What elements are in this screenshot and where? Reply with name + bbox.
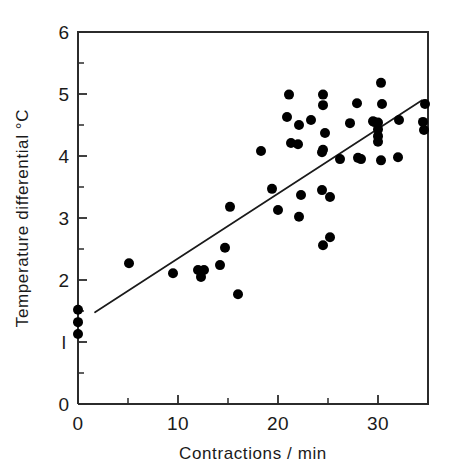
data-point: [377, 99, 387, 109]
data-point: [256, 146, 266, 156]
trend-line-group: [95, 100, 422, 312]
y-tick-label-2: 2: [58, 270, 69, 291]
x-tick-label-10: 10: [167, 413, 189, 434]
data-point: [325, 192, 335, 202]
data-point: [318, 240, 328, 250]
plot-canvas: 01020300l23456 Contractions / minTempera…: [0, 0, 451, 467]
axis-frame: [78, 32, 428, 404]
data-point: [335, 154, 345, 164]
data-point: [352, 98, 362, 108]
data-point: [199, 265, 209, 275]
data-point: [376, 155, 386, 165]
x-axis-title: Contractions / min: [179, 444, 327, 463]
x-tick-label-0: 0: [72, 413, 83, 434]
y-tick-label-3: 3: [58, 208, 69, 229]
data-points-group: [73, 78, 430, 339]
data-point: [233, 289, 243, 299]
data-point: [296, 190, 306, 200]
data-point: [356, 154, 366, 164]
y-tick-label-1: l: [62, 332, 67, 353]
x-tick-label-30: 30: [367, 413, 389, 434]
x-tick-label-20: 20: [267, 413, 289, 434]
data-point: [73, 329, 83, 339]
data-point: [373, 137, 383, 147]
data-point: [306, 115, 316, 125]
data-point: [320, 128, 330, 138]
y-tick-label-0: 0: [58, 394, 69, 415]
data-point: [273, 205, 283, 215]
data-point: [376, 78, 386, 88]
data-point: [317, 185, 327, 195]
y-tick-label-5: 5: [58, 84, 69, 105]
data-point: [293, 139, 303, 149]
data-point: [345, 118, 355, 128]
data-point: [325, 232, 335, 242]
data-point: [220, 243, 230, 253]
data-point: [393, 152, 403, 162]
regression-line: [95, 100, 422, 312]
data-point: [420, 99, 430, 109]
axes-group: [78, 32, 428, 404]
data-point: [225, 202, 235, 212]
data-point: [73, 317, 83, 327]
data-point: [282, 112, 292, 122]
data-point: [318, 145, 328, 155]
data-point: [318, 90, 328, 100]
data-point: [168, 268, 178, 278]
data-point: [124, 258, 134, 268]
data-point: [73, 305, 83, 315]
data-point: [394, 115, 404, 125]
data-point: [419, 125, 429, 135]
data-point: [294, 212, 304, 222]
data-point: [284, 90, 294, 100]
y-tick-label-6: 6: [58, 22, 69, 43]
y-tick-label-4: 4: [58, 146, 69, 167]
data-point: [267, 184, 277, 194]
data-point: [294, 120, 304, 130]
data-point: [215, 260, 225, 270]
ticks-group: [78, 32, 428, 404]
data-point: [318, 100, 328, 110]
scatter-plot-figure: 01020300l23456 Contractions / minTempera…: [0, 0, 451, 467]
y-axis-title: Temperature differential °C: [13, 109, 32, 327]
